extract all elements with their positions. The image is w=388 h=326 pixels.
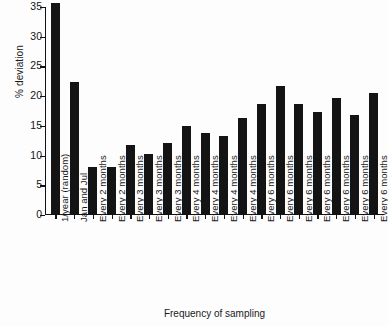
bar: [219, 136, 228, 214]
bar-chart-figure: % deviation 05101520253035 1/year (rando…: [0, 0, 388, 326]
bar: [163, 143, 172, 214]
x-tick-mark: [355, 215, 356, 219]
x-category-label: 1/year (random): [59, 154, 70, 222]
x-category-label: Every 4 months: [247, 155, 258, 222]
x-tick-mark: [336, 215, 337, 219]
bar-slot: [163, 7, 172, 214]
bar-slot: [294, 7, 303, 214]
x-category-label: Every 6 months: [303, 155, 314, 222]
x-tick-mark: [168, 215, 169, 219]
bar: [107, 167, 116, 214]
x-category-label: Every 6 months: [378, 155, 388, 222]
x-tick-mark: [280, 215, 281, 219]
bar-slot: [88, 7, 97, 214]
x-tick-mark: [55, 215, 56, 219]
x-tick-mark: [261, 215, 262, 219]
bar: [369, 93, 378, 214]
x-tick-mark: [112, 215, 113, 219]
x-category-label: Every 2 months: [97, 155, 108, 222]
x-tick-mark: [317, 215, 318, 219]
x-category-label: Every 3 months: [172, 155, 183, 222]
x-category-label: Every 2 months: [116, 155, 127, 222]
x-tick-mark: [93, 215, 94, 219]
y-tick-label: 10: [30, 149, 42, 161]
x-tick-mark: [130, 215, 131, 219]
x-tick-mark: [299, 215, 300, 219]
y-tick-label: 35: [30, 0, 42, 12]
bar-slot: [107, 7, 116, 214]
bar: [238, 118, 247, 214]
x-tick-mark: [243, 215, 244, 219]
x-tick-mark: [186, 215, 187, 219]
x-category-label: Every 6 months: [340, 155, 351, 222]
x-category-label: Every 6 months: [321, 155, 332, 222]
x-tick-mark: [74, 215, 75, 219]
y-axis-title: % deviation: [14, 12, 25, 132]
y-tick-label: 0: [36, 208, 42, 220]
x-category-label: Every 6 months: [359, 155, 370, 222]
x-category-label: Every 3 months: [134, 155, 145, 222]
bar-slot: [369, 7, 378, 214]
x-tick-mark: [374, 215, 375, 219]
y-tick-label: 30: [30, 30, 42, 42]
x-tick-mark: [149, 215, 150, 219]
x-axis-title: Frequency of sampling: [45, 308, 384, 319]
y-tick-label: 5: [36, 178, 42, 190]
x-category-label: Every 4 months: [228, 155, 239, 222]
x-category-label: Every 6 months: [265, 155, 276, 222]
x-category-label: Every 4 months: [209, 155, 220, 222]
bar: [88, 167, 97, 214]
bar-slot: [219, 7, 228, 214]
bar: [294, 104, 303, 214]
x-category-label: Jan and Jul: [78, 173, 89, 222]
x-category-label: Every 6 months: [284, 155, 295, 222]
y-tick-label: 25: [30, 59, 42, 71]
x-tick-mark: [224, 215, 225, 219]
x-tick-mark: [205, 215, 206, 219]
y-tick-label: 20: [30, 89, 42, 101]
bar-slot: [238, 7, 247, 214]
y-tick-label: 15: [30, 119, 42, 131]
x-category-label: Every 4 months: [190, 155, 201, 222]
x-category-label: Every 3 months: [153, 155, 164, 222]
